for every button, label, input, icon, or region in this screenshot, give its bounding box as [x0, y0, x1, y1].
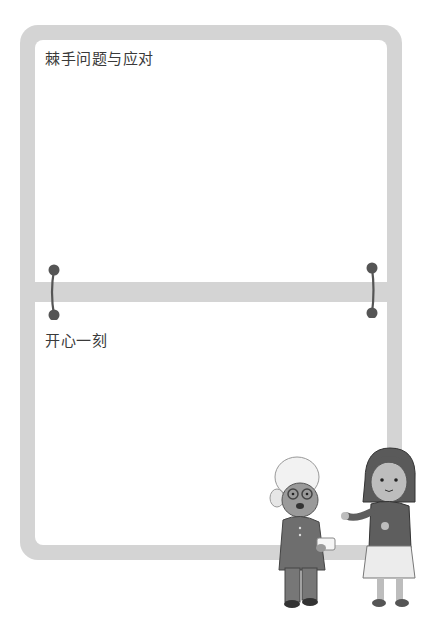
binder-ring-left-icon — [39, 260, 69, 320]
grandma-figure — [270, 457, 335, 608]
panel-tricky-problems[interactable] — [35, 40, 387, 282]
section-title-happy-moment: 开心一刻 — [45, 329, 107, 350]
section-title-tricky-problems: 棘手问题与应对 — [45, 47, 154, 68]
girl-figure — [341, 448, 415, 607]
binder-ring-right-icon — [357, 258, 387, 318]
grandma-and-girl-illustration — [265, 440, 425, 612]
